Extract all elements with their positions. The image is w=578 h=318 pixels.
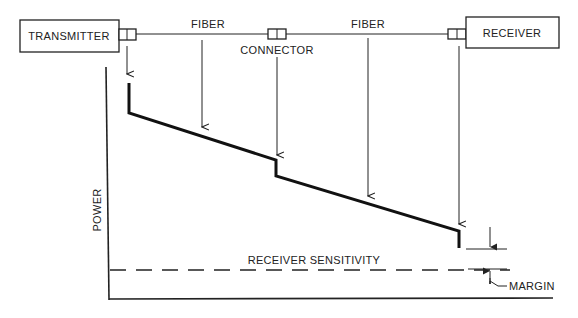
x-axis [109, 298, 553, 299]
power-level-line [129, 83, 459, 248]
margin-indicator: MARGIN [466, 227, 555, 292]
transmitter-block: TRANSMITTER [20, 20, 136, 52]
connector-label: CONNECTOR [240, 44, 313, 56]
connector-block: CONNECTOR [240, 29, 313, 56]
power-budget-diagram: TRANSMITTER FIBER CONNECTOR FIBER RECEIV… [0, 0, 578, 318]
transmitter-label: TRANSMITTER [28, 30, 110, 42]
receiver-label: RECEIVER [483, 27, 542, 39]
y-axis [106, 67, 109, 300]
y-axis-label: POWER [91, 188, 103, 231]
fiber-2-label: FIBER [351, 18, 385, 30]
fiber-1-label: FIBER [191, 18, 225, 30]
receiver-block: RECEIVER [448, 17, 559, 48]
margin-label: MARGIN [509, 280, 555, 292]
receiver-sensitivity-label: RECEIVER SENSITIVITY [248, 254, 381, 266]
